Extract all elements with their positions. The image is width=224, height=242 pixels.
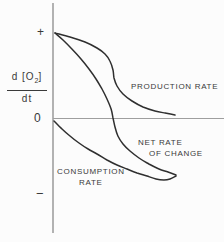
y-tick-zero: 0: [34, 112, 41, 124]
y-axis-label-numerator: d [O2]: [7, 69, 47, 91]
y-axis-label-denominator: dt: [7, 91, 47, 106]
label-production-rate: PRODUCTION RATE: [131, 82, 218, 92]
numerator-close-bracket: ]: [39, 71, 43, 82]
y-tick-minus: −: [36, 187, 44, 200]
label-net-rate-line1: NET RATE: [138, 138, 182, 148]
label-consumption-rate-line1: CONSUMPTION: [57, 167, 125, 177]
figure: d [O2] dt + 0 − PRODUCTION RATE NET RATE…: [0, 0, 224, 242]
curve-production-rate: [55, 33, 175, 115]
label-net-rate-line2: OF CHANGE: [149, 149, 203, 159]
label-consumption-rate-line2: RATE: [79, 178, 103, 188]
y-axis-label: d [O2] dt: [7, 69, 47, 106]
y-tick-plus: +: [37, 26, 44, 38]
numerator-text: d [O: [12, 71, 35, 82]
